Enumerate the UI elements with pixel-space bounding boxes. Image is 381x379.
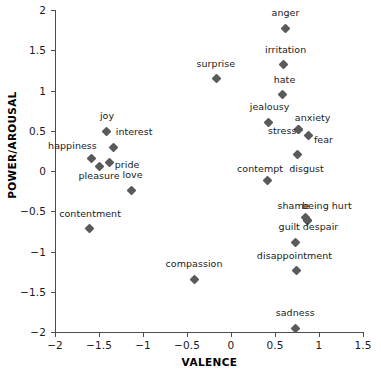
data-point-label: anxiety xyxy=(295,113,331,123)
x-tick-label: 0 xyxy=(211,340,251,350)
data-point-label: sadness xyxy=(276,308,315,318)
data-point-label: despair xyxy=(303,222,339,232)
data-point-label: contempt xyxy=(237,164,283,174)
x-tick-mark xyxy=(231,333,232,337)
x-tick-label: 0.5 xyxy=(255,340,295,350)
x-tick-mark xyxy=(99,333,100,337)
x-axis-title: VALENCE xyxy=(55,356,364,368)
x-tick-label: −2 xyxy=(35,340,75,350)
x-tick-label: 1.5 xyxy=(343,340,381,350)
data-point-label: jealousy xyxy=(250,102,290,112)
x-tick-mark xyxy=(275,333,276,337)
data-point-label: disgust xyxy=(289,164,324,174)
data-point-label: disappointment xyxy=(257,251,332,261)
x-tick-label: −0.5 xyxy=(167,340,207,350)
x-tick-label: −1 xyxy=(123,340,163,350)
y-tick-label: 2 xyxy=(0,5,46,15)
data-point-label: love xyxy=(122,170,142,180)
x-tick-mark xyxy=(55,333,56,337)
data-point-label: guilt xyxy=(279,222,300,232)
x-tick-mark xyxy=(319,333,320,337)
scatter-plot-figure: 21.510.50−0.5−1−1.5−2 −2−1.5−1−0.500.511… xyxy=(0,0,381,379)
x-tick-label: 1 xyxy=(299,340,339,350)
data-point-label: contentment xyxy=(59,209,121,219)
y-tick-label: −1 xyxy=(0,247,46,257)
x-tick-mark xyxy=(187,333,188,337)
x-tick-mark xyxy=(143,333,144,337)
data-point-label: anger xyxy=(272,8,300,18)
y-axis-title: POWER/AROUSAL xyxy=(6,65,18,225)
data-point-label: joy xyxy=(100,111,114,121)
data-point-label: being hurt xyxy=(302,201,352,211)
x-tick-label: −1.5 xyxy=(79,340,119,350)
x-tick-mark xyxy=(363,333,364,337)
data-point-label: interest xyxy=(116,127,153,137)
data-point-label: fear xyxy=(314,135,333,145)
data-point-label: surprise xyxy=(197,59,236,69)
y-tick-label: −1.5 xyxy=(0,287,46,297)
y-tick-label: 1.5 xyxy=(0,45,46,55)
data-point-label: happiness xyxy=(48,141,97,151)
data-point-label: irritation xyxy=(265,45,306,55)
data-point-label: hate xyxy=(274,75,296,85)
x-axis-line xyxy=(55,332,364,333)
data-point-label: stress xyxy=(268,126,296,136)
data-point-label: compassion xyxy=(166,259,223,269)
data-point-label: pleasure xyxy=(79,171,120,181)
y-tick-label: −2 xyxy=(0,327,46,337)
